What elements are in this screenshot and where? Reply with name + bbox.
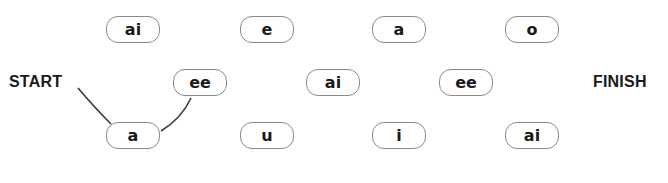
start-label: START [9, 73, 62, 91]
node-bottom-1[interactable]: a [106, 122, 160, 149]
node-middle-2[interactable]: ai [306, 69, 360, 96]
node-top-4[interactable]: o [505, 16, 559, 43]
node-top-2[interactable]: e [240, 16, 294, 43]
path-start-to-a [78, 88, 111, 124]
node-top-3[interactable]: a [372, 16, 426, 43]
node-top-1[interactable]: ai [106, 16, 160, 43]
node-middle-1[interactable]: ee [173, 69, 227, 96]
node-middle-3[interactable]: ee [439, 69, 493, 96]
finish-label: FINISH [593, 73, 647, 91]
path-a-to-ee [161, 98, 191, 131]
node-bottom-4[interactable]: ai [505, 122, 559, 149]
node-bottom-2[interactable]: u [240, 122, 294, 149]
node-bottom-3[interactable]: i [372, 122, 426, 149]
